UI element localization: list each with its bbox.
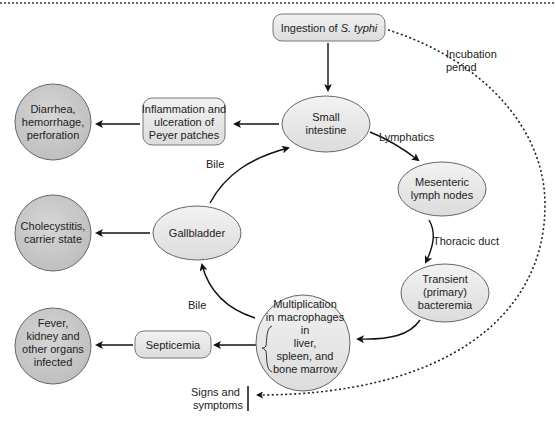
node-diarrhea: Diarrhea, hemorrhage, perforation: [15, 84, 91, 160]
svg-text:Transient: Transient: [422, 273, 467, 285]
svg-text:infected: infected: [34, 356, 73, 368]
label-lymphatics: Lymphatics: [379, 131, 435, 143]
node-inflammation: Inflammation and ulceration of Peyer pat…: [142, 98, 226, 145]
svg-text:Peyer patches: Peyer patches: [149, 129, 220, 141]
svg-text:Inflammation and: Inflammation and: [142, 103, 226, 115]
label-bile-lower: Bile: [188, 299, 206, 311]
node-small-intestine: Small intestine: [282, 96, 370, 152]
arrow-multiplication-to-gallbladder: [202, 265, 255, 318]
arrow-gallbladder-to-small-intestine: [210, 148, 288, 203]
svg-text:Cholecystitis,: Cholecystitis,: [21, 220, 86, 232]
svg-text:perforation: perforation: [27, 129, 80, 141]
svg-text:bacteremia: bacteremia: [418, 299, 473, 311]
svg-text:ulceration of: ulceration of: [154, 116, 215, 128]
node-transient-bacteremia: Transient (primary) bacteremia: [401, 264, 489, 322]
svg-text:in: in: [301, 324, 310, 336]
arrow-transient-to-multiplication: [358, 320, 420, 339]
label-thoracic-duct: Thoracic duct: [433, 235, 499, 247]
label-incubation-period: Incubation period: [446, 48, 500, 73]
node-mesenteric-lymph-nodes: Mesenteric lymph nodes: [398, 162, 486, 216]
svg-text:in macrophages: in macrophages: [266, 311, 345, 323]
svg-text:Fever,: Fever,: [38, 317, 69, 329]
node-cholecystitis: Cholecystitis, carrier state: [15, 195, 91, 271]
svg-text:intestine: intestine: [306, 124, 347, 136]
svg-text:Mesenteric: Mesenteric: [415, 176, 469, 188]
svg-text:Gallbladder: Gallbladder: [169, 227, 226, 239]
node-ingestion: Ingestion of S. typhi: [273, 14, 385, 41]
svg-text:(primary): (primary): [423, 286, 467, 298]
svg-text:lymph nodes: lymph nodes: [411, 189, 474, 201]
svg-text:Septicemia: Septicemia: [146, 339, 201, 351]
node-septicemia: Septicemia: [135, 331, 211, 358]
svg-text:spleen, and: spleen, and: [277, 350, 334, 362]
svg-text:Ingestion of S. typhi: Ingestion of S. typhi: [281, 22, 378, 34]
svg-text:Small: Small: [312, 111, 340, 123]
svg-text:carrier state: carrier state: [24, 233, 82, 245]
svg-text:other organs: other organs: [22, 343, 84, 355]
svg-text:liver,: liver,: [294, 337, 317, 349]
svg-text:Multiplication: Multiplication: [273, 298, 337, 310]
svg-text:bone marrow: bone marrow: [273, 363, 337, 375]
typhoid-pathogenesis-diagram: Ingestion of S. typhi Small intestine In…: [0, 0, 556, 422]
node-gallbladder: Gallbladder: [153, 206, 241, 260]
node-fever: Fever, kidney and other organs infected: [15, 308, 91, 384]
label-bile-upper: Bile: [206, 158, 224, 170]
svg-text:Diarrhea,: Diarrhea,: [30, 103, 75, 115]
svg-text:hemorrhage,: hemorrhage,: [22, 116, 84, 128]
label-signs-and-symptoms: Signs and symptoms: [191, 386, 243, 411]
svg-text:kidney and: kidney and: [26, 330, 79, 342]
node-multiplication: Multiplication in macrophages in liver, …: [256, 295, 350, 391]
